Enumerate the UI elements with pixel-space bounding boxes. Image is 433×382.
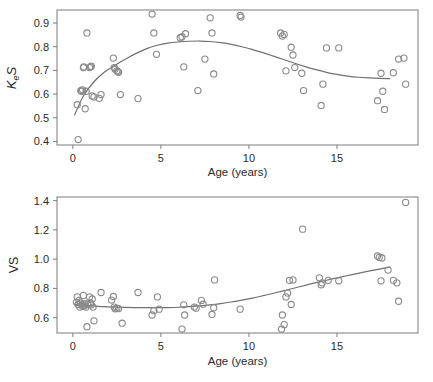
data-point <box>285 290 291 296</box>
plot-frame <box>57 197 418 333</box>
data-point <box>84 30 90 36</box>
data-point <box>82 106 88 112</box>
data-point <box>149 11 155 17</box>
data-point <box>283 294 289 300</box>
data-point <box>151 30 157 36</box>
plot-panel-top: 0510150.40.50.60.70.80.9Age (years)KeS <box>0 0 433 190</box>
data-point <box>237 306 243 312</box>
data-point <box>300 226 306 232</box>
data-point <box>91 318 97 324</box>
y-tick-label: 0.5 <box>34 112 49 124</box>
data-point <box>378 70 384 76</box>
data-point <box>300 87 306 93</box>
y-axis-label: KeS <box>4 66 21 89</box>
data-point <box>154 294 160 300</box>
x-tick-label: 10 <box>243 152 255 164</box>
data-point <box>290 52 296 58</box>
x-tick-label: 0 <box>70 340 76 352</box>
data-point <box>299 70 305 76</box>
data-point <box>336 278 342 284</box>
x-axis-label: Age (years) <box>208 355 268 367</box>
y-tick-label: 0.4 <box>34 135 49 147</box>
scatter-points <box>73 199 409 332</box>
x-tick-label: 10 <box>243 340 255 352</box>
data-point <box>182 312 188 318</box>
data-point <box>195 87 201 93</box>
y-tick-label: 1.2 <box>34 224 49 236</box>
data-point <box>211 71 217 77</box>
data-point <box>110 55 116 61</box>
data-point <box>396 298 402 304</box>
data-point <box>320 81 326 87</box>
y-tick-label: 1.4 <box>34 195 49 207</box>
y-axis-label: VS <box>7 257 21 274</box>
data-point <box>211 305 217 311</box>
y-tick-label: 0.7 <box>34 64 49 76</box>
data-point <box>200 301 206 307</box>
x-tick-label: 5 <box>158 340 164 352</box>
data-point <box>207 15 213 21</box>
y-tick-label: 0.9 <box>34 17 49 29</box>
data-point <box>390 70 396 76</box>
data-point <box>380 88 386 94</box>
data-point <box>381 106 387 112</box>
x-tick-label: 15 <box>331 340 343 352</box>
data-point <box>288 301 294 307</box>
data-point <box>181 64 187 70</box>
chart-panel-vs: 0510150.60.81.01.21.4Age (years)VS <box>0 185 433 382</box>
chart-panel-keS: 0510150.40.50.60.70.80.9Age (years)KeS <box>0 0 433 190</box>
trend-line <box>75 41 390 115</box>
x-tick-label: 0 <box>70 152 76 164</box>
data-point <box>279 312 285 318</box>
y-tick-label: 0.8 <box>34 282 49 294</box>
x-tick-label: 15 <box>331 152 343 164</box>
x-tick-label: 5 <box>158 152 164 164</box>
data-point <box>98 91 104 97</box>
data-point <box>202 56 208 62</box>
y-tick-label: 0.8 <box>34 41 49 53</box>
y-tick-label: 0.6 <box>34 88 49 100</box>
y-tick-label: 1.0 <box>34 253 49 265</box>
data-point <box>198 297 204 303</box>
data-point <box>153 51 159 57</box>
plot-panel-bottom: 0510150.60.81.01.21.4Age (years)VS <box>0 185 433 382</box>
data-point <box>98 289 104 295</box>
y-tick-label: 0.6 <box>34 312 49 324</box>
data-point <box>323 45 329 51</box>
data-point <box>84 324 90 330</box>
data-point <box>135 289 141 295</box>
data-point <box>403 199 409 205</box>
data-point <box>283 68 289 74</box>
data-point <box>117 91 123 97</box>
data-point <box>209 30 215 36</box>
data-point <box>378 278 384 284</box>
data-point <box>119 320 125 326</box>
figure-scatter-panels: 0510150.40.50.60.70.80.9Age (years)KeS 0… <box>0 0 433 382</box>
data-point <box>318 102 324 108</box>
data-point <box>135 95 141 101</box>
data-point <box>110 293 116 299</box>
trend-line <box>75 267 390 308</box>
data-point <box>288 44 294 50</box>
data-point <box>336 45 342 51</box>
data-point <box>209 311 215 317</box>
data-point <box>212 277 218 283</box>
data-point <box>108 297 114 303</box>
data-point <box>75 136 81 142</box>
data-point <box>292 64 298 70</box>
data-point <box>80 292 86 298</box>
data-point <box>374 98 380 104</box>
data-point <box>179 326 185 332</box>
data-point <box>403 81 409 87</box>
x-axis-label: Age (years) <box>208 166 268 178</box>
